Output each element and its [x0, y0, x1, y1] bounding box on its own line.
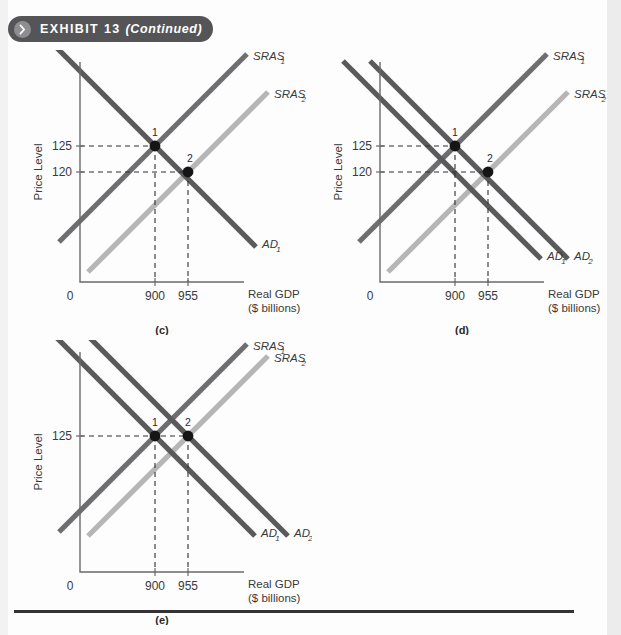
equilibrium-point-label-2: 2 [185, 416, 191, 428]
xtick-label-955: 955 [178, 289, 198, 303]
equilibrium-point-label-2: 2 [487, 152, 493, 164]
y-axis-title: Price Level [332, 144, 344, 201]
svg-text:2: 2 [300, 95, 306, 104]
svg-text:1: 1 [276, 245, 280, 254]
xtick-label-955: 955 [478, 289, 498, 303]
equilibrium-point-1 [450, 141, 461, 152]
equilibrium-point-label-1: 1 [152, 416, 158, 428]
curve-ad2 [370, 61, 568, 259]
y-axis-title: Price Level [32, 434, 44, 491]
equilibrium-point-label-1: 1 [152, 126, 158, 138]
x-axis-title-line2: ($ billions) [548, 302, 601, 314]
curve-label-sras1: SRAS1 [253, 50, 285, 66]
xtick-label-900: 900 [445, 289, 465, 303]
equilibrium-point-2 [183, 167, 194, 178]
page-bottom-rule [14, 610, 574, 613]
chart-svg-c: 125120900955012SRAS1SRAS2AD1Price LevelR… [22, 50, 312, 335]
svg-text:1: 1 [561, 257, 565, 266]
x-axis-title-line1: Real GDP [548, 288, 600, 300]
curve-label-sras1: SRAS1 [553, 50, 585, 66]
chevron-right-icon [14, 21, 31, 38]
curve-label-ad1: AD1 [546, 250, 566, 266]
y-axis-title: Price Level [32, 144, 44, 201]
chart-panel-d: 125120900955012SRAS1SRAS2AD2AD1Price Lev… [322, 50, 612, 335]
origin-label: 0 [67, 289, 74, 303]
curve-label-ad2: AD2 [573, 250, 593, 266]
chart-svg-d: 125120900955012SRAS1SRAS2AD2AD1Price Lev… [322, 50, 612, 335]
ytick-label-125: 125 [52, 139, 72, 153]
chart-panel-e: 125900955012SRAS1SRAS2AD1AD2Price LevelR… [22, 340, 312, 625]
x-axis-title-line1: Real GDP [248, 288, 300, 300]
page-gutter-left [0, 0, 8, 635]
page-root: EXHIBIT 13 (Continued) 125120900955012SR… [0, 0, 621, 635]
xtick-label-955: 955 [178, 579, 198, 593]
svg-text:1: 1 [280, 57, 284, 66]
curve-label-ad1: AD1 [260, 527, 280, 543]
exhibit-title: EXHIBIT 13 (Continued) [40, 22, 202, 36]
equilibrium-point-2 [483, 167, 494, 178]
x-axis-title-line2: ($ billions) [248, 302, 301, 314]
x-axis-title-line1: Real GDP [248, 578, 300, 590]
ytick-label-120: 120 [352, 165, 372, 179]
svg-text:1: 1 [275, 534, 279, 543]
equilibrium-point-2 [183, 431, 194, 442]
svg-text:2: 2 [300, 359, 306, 368]
equilibrium-point-1 [150, 431, 161, 442]
curve-label-ad1: AD1 [261, 238, 281, 254]
svg-text:2: 2 [307, 534, 312, 543]
curve-label-sras2: SRAS2 [274, 352, 306, 368]
panel-label: (e) [155, 614, 169, 625]
origin-label: 0 [67, 579, 74, 593]
ytick-label-125: 125 [352, 139, 372, 153]
curve-label-sras2: SRAS2 [274, 88, 306, 104]
panel-label: (d) [455, 324, 469, 335]
curve-label-sras2: SRAS2 [574, 88, 606, 104]
equilibrium-point-label-2: 2 [187, 152, 193, 164]
svg-text:2: 2 [600, 95, 606, 104]
chart-svg-e: 125900955012SRAS1SRAS2AD1AD2Price LevelR… [22, 340, 312, 625]
equilibrium-point-1 [150, 141, 161, 152]
exhibit-number: EXHIBIT 13 [40, 22, 121, 36]
xtick-label-900: 900 [145, 289, 165, 303]
svg-text:2: 2 [587, 257, 593, 266]
origin-label: 0 [367, 289, 374, 303]
equilibrium-point-label-1: 1 [452, 126, 458, 138]
svg-text:1: 1 [580, 57, 584, 66]
exhibit-continued: (Continued) [126, 22, 203, 36]
curve-sras2 [388, 92, 568, 272]
curve-sras2 [88, 356, 268, 536]
curve-sras2 [88, 92, 268, 272]
x-axis-title-line2: ($ billions) [248, 592, 301, 604]
chart-panel-c: 125120900955012SRAS1SRAS2AD1Price LevelR… [22, 50, 312, 335]
exhibit-header-bar: EXHIBIT 13 (Continued) [8, 16, 213, 42]
xtick-label-900: 900 [145, 579, 165, 593]
ytick-label-125: 125 [52, 429, 72, 443]
ytick-label-120: 120 [52, 165, 72, 179]
curve-label-ad2: AD2 [293, 527, 312, 543]
panel-label: (c) [155, 324, 169, 335]
